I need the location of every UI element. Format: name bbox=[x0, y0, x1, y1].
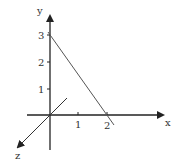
y-tick-label-1: 1 bbox=[38, 84, 44, 95]
x-tick-label-2: 2 bbox=[104, 120, 110, 131]
z-axis-label: z bbox=[15, 150, 20, 161]
coordinate-diagram: y x z 3 2 1 1 2 bbox=[0, 0, 180, 165]
x-axis-label: x bbox=[165, 117, 171, 128]
y-axis bbox=[47, 16, 50, 150]
y-tick-label-2: 2 bbox=[38, 57, 44, 68]
x-tick-label-1: 1 bbox=[75, 119, 81, 130]
plotted-line bbox=[48, 32, 114, 125]
x-axis bbox=[27, 112, 163, 115]
z-axis bbox=[18, 98, 67, 147]
y-axis-label: y bbox=[36, 5, 43, 16]
y-tick-label-3: 3 bbox=[38, 30, 44, 41]
